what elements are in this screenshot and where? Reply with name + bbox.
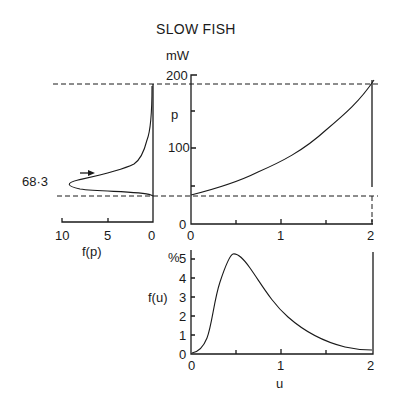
arrow-icon: [88, 170, 95, 176]
fu-tick-5: 5: [179, 251, 186, 266]
u-tick-1: 1: [277, 228, 284, 243]
fu-tick-1: 1: [179, 328, 186, 343]
p-axes: [191, 75, 373, 224]
u-tick-0: 0: [187, 228, 194, 243]
fu-u-tick-1: 1: [277, 358, 284, 373]
fu-axis-label: f(u): [148, 290, 168, 305]
fu-tick-2: 2: [179, 309, 186, 324]
fu-tick-3: 3: [179, 290, 186, 305]
power-curve: [191, 80, 374, 195]
p-minor-ticks: [191, 111, 196, 186]
fp-tick-10: 10: [55, 228, 69, 243]
speed-distribution-curve: [192, 254, 372, 353]
fp-tick-0: 0: [148, 228, 155, 243]
u-ticks: [236, 219, 372, 224]
u-tick-2: 2: [367, 228, 374, 243]
chart-title: SLOW FISH: [156, 21, 236, 37]
fu-axes: [191, 250, 373, 354]
fu-tick-0: 0: [179, 347, 186, 362]
fp-axis-label: f(p): [82, 244, 102, 259]
power-distribution-panel: 68·3 10 5 0 f(p): [22, 84, 155, 259]
fu-x-ticks: [236, 349, 326, 354]
fp-tick-5: 5: [104, 228, 111, 243]
fp-axes: [62, 84, 153, 222]
p-axis-label: p: [171, 107, 178, 122]
figure: SLOW FISH mW 200 100 0 p 0 1 2 68·3 10 5…: [0, 0, 399, 407]
speed-distribution-panel: % 5 4 3 2 1 0 f(u) 0 1 2 u: [148, 250, 374, 391]
p-tick-100: 100: [168, 140, 190, 155]
fu-u-tick-2: 2: [367, 358, 374, 373]
p-tick-200: 200: [166, 68, 188, 83]
power-distribution-curve: [69, 86, 153, 196]
fu-tick-4: 4: [179, 271, 186, 286]
u-axis-label: u: [276, 376, 283, 391]
p-tick-0: 0: [179, 217, 186, 232]
annotation-label: 68·3: [22, 174, 48, 189]
p-unit-label: mW: [166, 48, 190, 63]
fu-u-tick-0: 0: [188, 358, 195, 373]
power-vs-speed-panel: mW 200 100 0 p 0 1 2: [53, 48, 380, 243]
